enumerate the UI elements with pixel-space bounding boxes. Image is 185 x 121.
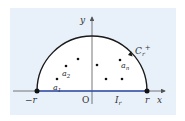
y-axis-label: y [79, 15, 86, 25]
point-a2 [65, 65, 68, 68]
point [105, 78, 108, 81]
contour-label: Cr+ [135, 44, 151, 57]
endpoint-right [145, 89, 150, 94]
origin-label: O [82, 95, 89, 105]
point [96, 64, 99, 67]
x-axis-label: x [157, 95, 162, 105]
endpoint-left [35, 89, 40, 94]
right-endpoint-label: r [145, 95, 150, 105]
point-a1 [56, 78, 59, 81]
left-endpoint-label: −r [25, 95, 38, 105]
point [121, 78, 124, 81]
segment-label: Ir [114, 95, 123, 106]
contour-diagram: y x O −r r Ir Cr+ a1 a2 an [0, 0, 185, 121]
point [77, 58, 80, 61]
